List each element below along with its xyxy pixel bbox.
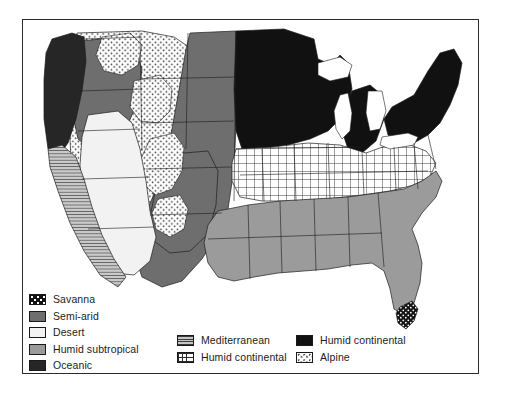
legend-label-savanna: Savanna bbox=[53, 294, 95, 305]
legend-item-humid-continental-dark: Humid continental bbox=[296, 333, 406, 349]
legend-swatch-humid-continental-dark-icon bbox=[296, 335, 313, 346]
legend-item-mediterranean: Mediterranean bbox=[177, 333, 287, 349]
legend-label-humid-continental-grid: Humid continental bbox=[201, 352, 287, 363]
legend-column-3: Humid continental Alpine bbox=[296, 333, 406, 366]
legend-swatch-savanna-icon bbox=[29, 294, 46, 305]
legend-column-2: Mediterranean Humid continental bbox=[177, 333, 287, 366]
region-humid-continental-dark-upper-midwest bbox=[234, 29, 352, 149]
region-humid-continental-dark-northeast bbox=[384, 49, 462, 143]
map-climate-areas bbox=[44, 29, 462, 329]
legend-label-mediterranean: Mediterranean bbox=[201, 335, 270, 346]
legend-item-semi-arid: Semi-arid bbox=[29, 309, 139, 325]
legend-label-alpine: Alpine bbox=[320, 352, 350, 363]
legend-label-humid-continental-dark: Humid continental bbox=[320, 335, 406, 346]
map-legend: Savanna Semi-arid Desert Humid subtropic… bbox=[29, 292, 469, 370]
legend-label-oceanic: Oceanic bbox=[53, 360, 92, 371]
legend-label-semi-arid: Semi-arid bbox=[53, 311, 99, 322]
legend-item-humid-continental-grid: Humid continental bbox=[177, 350, 287, 366]
legend-label-humid-subtropical: Humid subtropical bbox=[53, 344, 139, 355]
legend-item-humid-subtropical: Humid subtropical bbox=[29, 342, 139, 358]
legend-swatch-desert-icon bbox=[29, 327, 46, 338]
climate-map-figure: Savanna Semi-arid Desert Humid subtropic… bbox=[0, 0, 513, 400]
lake-superior bbox=[318, 57, 352, 81]
legend-column-1: Savanna Semi-arid Desert Humid subtropic… bbox=[29, 292, 139, 375]
legend-label-desert: Desert bbox=[53, 327, 85, 338]
legend-item-savanna: Savanna bbox=[29, 292, 139, 308]
legend-swatch-semi-arid-icon bbox=[29, 311, 46, 322]
legend-swatch-humid-continental-grid-icon bbox=[177, 352, 194, 363]
legend-swatch-mediterranean-icon bbox=[177, 335, 194, 346]
lake-huron-erie bbox=[366, 91, 386, 131]
legend-item-alpine: Alpine bbox=[296, 350, 406, 366]
legend-item-oceanic: Oceanic bbox=[29, 358, 139, 374]
legend-swatch-oceanic-icon bbox=[29, 360, 46, 371]
legend-swatch-humid-subtropical-icon bbox=[29, 344, 46, 355]
legend-swatch-alpine-icon bbox=[296, 352, 313, 363]
legend-item-desert: Desert bbox=[29, 325, 139, 341]
